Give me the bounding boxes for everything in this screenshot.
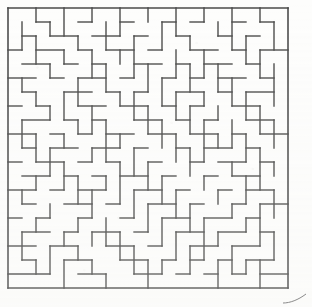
maze-wall-group xyxy=(8,8,288,288)
maze-page xyxy=(0,0,312,307)
maze-canvas xyxy=(0,0,312,307)
